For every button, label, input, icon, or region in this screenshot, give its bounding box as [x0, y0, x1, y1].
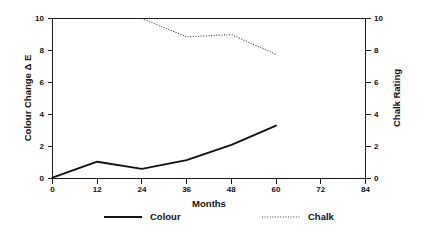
y2-tick-label-0: 0: [374, 174, 379, 183]
y2-tick-label-6: 6: [374, 78, 379, 87]
y2-tick-label-4: 4: [374, 110, 379, 119]
line-chart: 0 2 4 6 8 10 0 2 4 6 8 10: [0, 0, 425, 233]
x-tick-label-24: 24: [137, 185, 146, 194]
y-tick-label-4: 4: [40, 110, 45, 119]
x-tick-label-0: 0: [50, 185, 55, 194]
y-axis-left-title: Colour Change Δ E: [22, 55, 33, 142]
y-axis-right-title: Chalk Rating: [391, 69, 402, 127]
y-tick-label-10: 10: [35, 14, 44, 23]
y-tick-label-6: 6: [40, 78, 45, 87]
y2-tick-label-8: 8: [374, 46, 379, 55]
x-tick-label-12: 12: [93, 185, 102, 194]
y2-tick-label-10: 10: [374, 14, 383, 23]
x-tick-label-36: 36: [182, 185, 191, 194]
legend-label-chalk: Chalk: [308, 211, 335, 222]
x-tick-label-72: 72: [316, 185, 325, 194]
x-axis-title: Months: [192, 198, 226, 209]
chart-container: 0 2 4 6 8 10 0 2 4 6 8 10: [0, 0, 425, 233]
legend-label-colour: Colour: [150, 211, 181, 222]
x-tick-label-48: 48: [227, 185, 236, 194]
y-tick-label-2: 2: [40, 142, 45, 151]
y-tick-label-8: 8: [40, 46, 45, 55]
x-tick-label-84: 84: [361, 185, 370, 194]
y-tick-label-0: 0: [40, 174, 45, 183]
y2-tick-label-2: 2: [374, 142, 379, 151]
x-tick-label-60: 60: [272, 185, 281, 194]
